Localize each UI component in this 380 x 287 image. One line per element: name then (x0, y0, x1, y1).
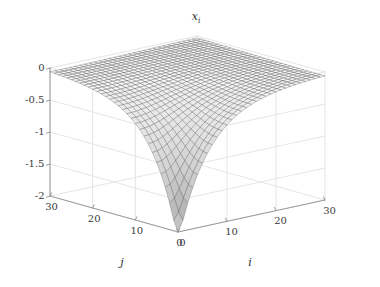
j-tick-label-0: 30 (45, 201, 58, 212)
z-tick-label-0: 0 (38, 62, 44, 73)
i-tick-label-0: 0 (179, 237, 185, 248)
surface-plot-figure: xi 0-0.5-1-1.5-2 3020100 0102030 j i (0, 0, 380, 287)
i-tick-label-2: 20 (274, 215, 287, 226)
j-tick-label-1: 20 (88, 213, 101, 224)
plot-canvas: xi 0-0.5-1-1.5-2 3020100 0102030 j i (0, 0, 380, 287)
z-tick-label-2: -1 (35, 126, 45, 137)
j-tick-label-2: 10 (130, 225, 143, 236)
z-tick-label-1: -0.5 (25, 94, 44, 105)
z-tick-label-3: -1.5 (25, 158, 44, 169)
i-axis-label: i (248, 256, 252, 269)
z-tick-label-4: -2 (35, 190, 45, 201)
i-tick-label-3: 30 (323, 205, 336, 216)
i-tick-label-1: 10 (225, 226, 238, 237)
